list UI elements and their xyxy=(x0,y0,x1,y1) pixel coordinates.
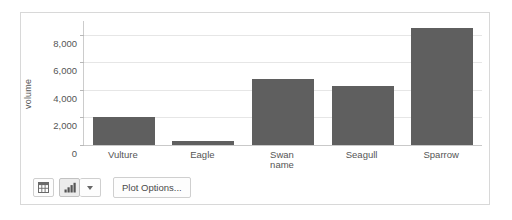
bar-slot xyxy=(243,21,323,145)
bar-slot xyxy=(84,21,164,145)
gridline xyxy=(84,145,482,146)
chart-toolbar: Plot Options... xyxy=(21,171,489,204)
chevron-down-icon xyxy=(87,186,93,190)
x-axis-title: name xyxy=(83,159,481,170)
bar-slot xyxy=(164,21,244,145)
bar-series xyxy=(84,21,482,145)
chart-type-dropdown-button[interactable] xyxy=(80,178,101,197)
bar[interactable] xyxy=(252,79,314,145)
y-axis-tick-label: 8,000 xyxy=(53,37,77,48)
y-axis-tick-label: 2,000 xyxy=(53,120,77,131)
bar[interactable] xyxy=(411,28,473,145)
plot-options-button[interactable]: Plot Options... xyxy=(113,177,191,198)
bar[interactable] xyxy=(93,117,155,145)
y-axis-tick-label: 4,000 xyxy=(53,92,77,103)
plot-area xyxy=(83,21,482,145)
chart-type-group xyxy=(59,178,101,197)
bar-slot xyxy=(402,21,482,145)
bar-chart-icon xyxy=(64,182,76,193)
bar[interactable] xyxy=(332,86,394,145)
y-axis-tick xyxy=(80,145,84,146)
bar[interactable] xyxy=(172,141,234,145)
y-axis-tick-labels: 02,0004,0006,0008,000 xyxy=(37,21,81,153)
bar-slot xyxy=(323,21,403,145)
chart-view-button[interactable] xyxy=(59,178,80,197)
plot-card: volume 02,0004,0006,0008,000 VultureEagl… xyxy=(20,12,490,205)
bar-chart: volume 02,0004,0006,0008,000 VultureEagl… xyxy=(21,13,489,169)
y-axis-tick-label: 6,000 xyxy=(53,65,77,76)
table-view-button[interactable] xyxy=(33,178,54,197)
y-axis-tick-label: 0 xyxy=(72,148,77,159)
table-icon xyxy=(38,182,49,193)
